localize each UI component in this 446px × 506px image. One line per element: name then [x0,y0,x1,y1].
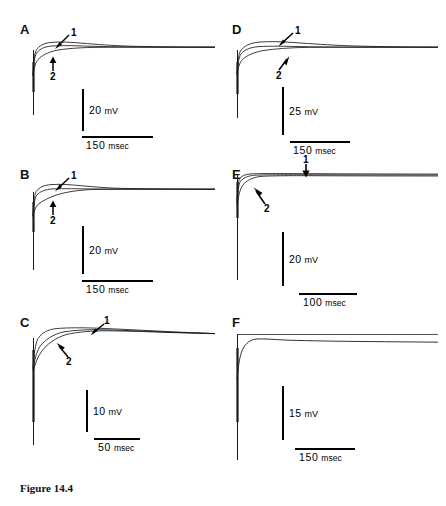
panel-f: F 15mV 150msec [223,310,446,475]
panel-a-time-value: 150 [86,139,105,151]
panel-f-voltage-scale-label: 15mV [289,408,318,419]
panel-f-time-scale-bar [295,448,355,450]
panel-e-voltage-value: 20 [289,253,301,265]
panel-b-voltage-scale-label: 20mV [89,245,118,256]
panel-f-voltage-value: 15 [289,407,301,419]
panel-e-voltage-scale-label: 20mV [289,254,318,265]
panel-d-traces [223,0,446,160]
panel-f-voltage-unit: mV [304,409,318,419]
panel-d-arrow-label-1: 1 [295,26,301,36]
panel-c-voltage-unit: mV [108,407,122,417]
panel-a-time-unit: msec [108,141,128,151]
panel-c-time-value: 50 [98,441,111,453]
panel-c-voltage-scale-bar [86,390,88,432]
panel-d-time-scale-label: 150msec [293,145,336,156]
panel-a-arrow-label-2: 2 [50,72,56,82]
panel-e-arrow-label-1: 1 [303,155,309,165]
panel-d-voltage-scale-label: 25mV [289,106,318,117]
panel-a-voltage-unit: mV [104,106,118,116]
panel-e-voltage-unit: mV [304,255,318,265]
panel-e-time-scale-label: 100msec [303,297,346,308]
panel-e-traces [223,160,446,315]
panel-e-voltage-scale-bar [282,232,284,286]
panel-c-time-scale-bar [94,438,140,440]
panel-c-arrow-label-2: 2 [66,357,72,367]
panel-d-voltage-scale-bar [282,87,284,135]
panel-e-time-unit: msec [325,298,345,308]
panel-b-time-value: 150 [86,283,105,295]
panel-e-arrow-label-2: 2 [264,204,270,214]
panel-b-voltage-value: 20 [89,244,101,256]
panel-b-arrow-label-2: 2 [50,216,56,226]
panel-b-time-unit: msec [108,285,128,295]
panel-b-voltage-scale-bar [82,226,84,274]
figure-caption: Figure 14.4 [20,482,73,494]
panel-e-time-scale-bar [299,293,357,295]
panel-b-time-scale-label: 150msec [86,284,129,295]
panel-d-voltage-value: 25 [289,105,301,117]
panel-f-time-unit: msec [321,453,341,463]
panel-d: D 1 2 25mV 150msec [223,0,446,160]
panel-d-arrow-label-2: 2 [276,71,282,81]
panel-d-time-unit: msec [315,146,335,156]
panel-a-voltage-scale-label: 20mV [89,105,118,116]
panel-e: E 1 2 20mV 100msec [223,160,446,315]
panel-f-time-scale-label: 150msec [299,452,342,463]
panel-b-time-scale-bar [82,280,153,282]
panel-a-arrow-label-1: 1 [71,28,77,38]
panel-c-time-unit: msec [114,443,134,453]
panel-f-traces [223,310,446,475]
panel-a-voltage-scale-bar [82,89,84,131]
panel-a: A 1 2 20mV 150msec [0,0,223,160]
panel-a-voltage-value: 20 [89,104,101,116]
panel-c-voltage-value: 10 [93,405,105,417]
panel-c-arrow-label-1: 1 [104,316,110,326]
panel-c: C 1 2 10mV 50msec [0,310,223,470]
panel-d-voltage-unit: mV [304,107,318,117]
panel-b: B 1 2 20mV 150msec [0,160,223,315]
panel-e-time-value: 100 [303,296,322,308]
panel-b-voltage-unit: mV [104,246,118,256]
panel-a-time-scale-bar [82,136,153,138]
panel-c-voltage-scale-label: 10mV [93,406,122,417]
panel-a-time-scale-label: 150msec [86,140,129,151]
panel-d-time-scale-bar [290,141,350,143]
figure-14-4: A 1 2 20mV 150msec [0,0,446,506]
panel-b-arrow-label-1: 1 [71,171,77,181]
panel-f-time-value: 150 [299,451,318,463]
panel-c-time-scale-label: 50msec [98,442,134,453]
panel-f-voltage-scale-bar [282,386,284,440]
